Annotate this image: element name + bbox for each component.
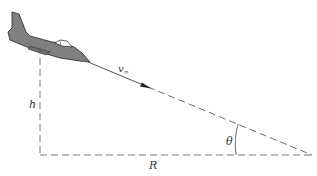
velocity-label: v∞	[118, 63, 129, 75]
glide-diagram: v∞ h R θ	[0, 0, 317, 176]
angle-label: θ	[226, 135, 233, 148]
arrowhead-icon	[140, 83, 151, 89]
aircraft-icon	[8, 12, 90, 62]
flight-path	[88, 62, 312, 155]
angle-arc	[235, 124, 238, 155]
height-label: h	[29, 98, 36, 111]
range-label: R	[148, 159, 157, 172]
